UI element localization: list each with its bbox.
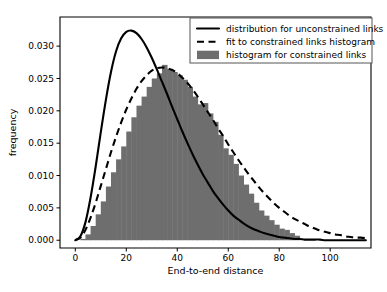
histogram-bar (259, 210, 265, 240)
histogram-bar (91, 226, 97, 240)
legend-label: histogram for constrained links (226, 50, 367, 60)
histogram-bar (177, 75, 183, 240)
histogram-bar (101, 201, 107, 240)
legend-label: distribution for unconstrained links (226, 24, 384, 34)
histogram-bar (223, 148, 229, 240)
histogram-bar (172, 72, 178, 240)
histogram-bar (218, 135, 224, 240)
legend-marker-patch (197, 51, 219, 59)
histogram-bar (106, 187, 112, 241)
x-tick-label: 100 (322, 253, 339, 263)
y-tick-label: 0.000 (28, 235, 54, 245)
histogram-bar (208, 113, 214, 240)
y-tick-label: 0.005 (28, 203, 54, 213)
x-tick-label: 20 (121, 253, 133, 263)
x-axis-label: End-to-end distance (168, 265, 264, 276)
histogram-bar (136, 106, 142, 241)
histogram-bar (157, 73, 163, 240)
x-tick-label: 60 (223, 253, 235, 263)
x-tick-label: 80 (274, 253, 286, 263)
x-tick-label: 0 (72, 253, 78, 263)
y-tick-label: 0.030 (28, 41, 54, 51)
histogram-bar (269, 220, 275, 240)
histogram-bar (182, 80, 188, 240)
histogram-bar (80, 239, 86, 240)
histogram-bar (121, 146, 127, 240)
histogram-bar (264, 216, 270, 241)
histogram-bar (85, 234, 91, 240)
y-axis-label: frequency (7, 108, 18, 156)
histogram-bar (228, 155, 234, 240)
x-tick-label: 40 (172, 253, 184, 263)
histogram-bar (116, 159, 122, 240)
legend-label: fit to constrained links histogram (226, 37, 375, 47)
y-tick-label: 0.020 (28, 106, 54, 116)
histogram-bar (147, 87, 153, 240)
histogram-bar (187, 87, 193, 240)
histogram-bar (131, 117, 137, 240)
histogram-bar (233, 164, 239, 240)
histogram-bar (244, 185, 250, 241)
histogram-bar (238, 176, 244, 241)
y-tick-label: 0.025 (28, 74, 54, 84)
histogram-bar (193, 97, 199, 241)
histogram-bar (111, 172, 117, 240)
y-tick-label: 0.010 (28, 171, 54, 181)
histogram-bar (96, 214, 102, 240)
chart-figure: 0204060801000.0000.0050.0100.0150.0200.0… (0, 0, 387, 292)
histogram-bar (254, 203, 260, 241)
histogram-bars (80, 65, 300, 240)
histogram-bar (152, 78, 158, 240)
histogram-bar (203, 103, 209, 240)
y-tick-label: 0.015 (28, 138, 54, 148)
histogram-bar (126, 132, 132, 241)
histogram-bar (249, 194, 255, 241)
histogram-bar (142, 97, 148, 241)
histogram-bar (213, 122, 219, 240)
